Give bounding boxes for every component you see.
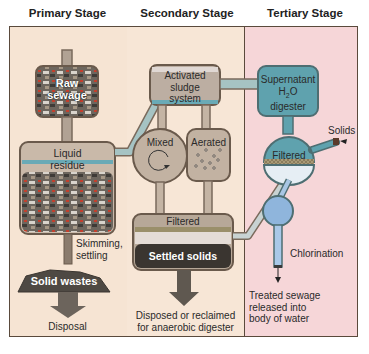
activated-line2: sludge bbox=[150, 82, 220, 94]
filtered-label-secondary: Filtered bbox=[133, 216, 233, 228]
liquid-residue-line2: residue bbox=[20, 160, 115, 172]
disposed-arrow bbox=[169, 270, 199, 306]
chlorination-label: Chlorination bbox=[290, 248, 343, 260]
disposal-arrow bbox=[50, 292, 86, 318]
supernatant-line1: Supernatant bbox=[258, 74, 318, 86]
raw-sewage-label-line2: sewage bbox=[36, 90, 98, 102]
raw-sewage-label: Raw sewage bbox=[36, 78, 98, 101]
inlet-pipe bbox=[62, 50, 72, 66]
treated-line1: Treated sewage bbox=[249, 290, 320, 302]
supernatant-line3: digester bbox=[258, 101, 318, 113]
o-text: O bbox=[290, 86, 298, 97]
treated-line2: released into bbox=[249, 302, 320, 314]
skimming-line1: Skimming, bbox=[76, 238, 123, 250]
mixed-label: Mixed bbox=[133, 137, 187, 149]
activated-line1: Activated bbox=[150, 70, 220, 82]
solid-wastes-label: Solid wastes bbox=[18, 276, 110, 288]
raw-sewage-label-line1: Raw bbox=[36, 78, 98, 90]
activated-sludge-label: Activated sludge system bbox=[150, 70, 220, 105]
chlorination-tank bbox=[263, 196, 293, 226]
disposed-line2: for anaerobic digester bbox=[127, 322, 244, 334]
output-arrow-icon bbox=[275, 277, 281, 283]
disposed-line1: Disposed or reclaimed bbox=[127, 310, 244, 322]
settled-solids-label: Settled solids bbox=[133, 251, 233, 263]
skimming-line2: settling bbox=[76, 250, 123, 262]
skimming-label: Skimming, settling bbox=[76, 238, 123, 261]
aerated-label: Aerated bbox=[187, 137, 230, 149]
treated-sewage-label: Treated sewage released into body of wat… bbox=[249, 290, 320, 325]
activated-line3: system bbox=[150, 93, 220, 105]
disposal-label: Disposal bbox=[20, 321, 115, 333]
liquid-residue-line1: Liquid bbox=[20, 148, 115, 160]
supernatant-label: Supernatant H2O digester bbox=[258, 74, 318, 113]
solids-label: Solids bbox=[328, 125, 355, 137]
disposed-label: Disposed or reclaimed for anaerobic dige… bbox=[127, 310, 244, 333]
h-text: H bbox=[279, 86, 286, 97]
treated-line3: body of water bbox=[249, 313, 320, 325]
solids-arrow-icon bbox=[340, 139, 347, 144]
filtered-label-tertiary: Filtered bbox=[264, 150, 314, 162]
supernatant-line2: H2O bbox=[258, 86, 318, 102]
liquid-residue-label: Liquid residue bbox=[20, 148, 115, 171]
